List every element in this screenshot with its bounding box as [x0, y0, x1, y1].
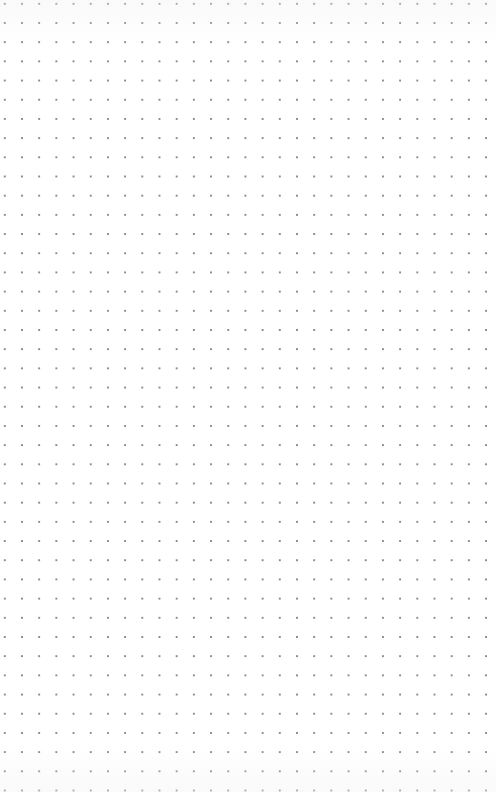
- dot-grid-canvas[interactable]: [0, 0, 496, 792]
- canvas-edge-shade: [0, 0, 496, 792]
